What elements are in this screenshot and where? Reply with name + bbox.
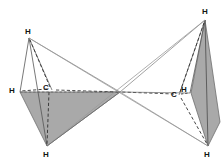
label-right-side-hydrogen: H [181, 86, 187, 94]
tetrahedra-svg [0, 0, 223, 163]
label-left-bottom-hydrogen: H [43, 151, 49, 159]
label-right-carbon: C [171, 91, 177, 99]
label-right-apex-hydrogen: H [202, 8, 208, 16]
left-bond-apexH-to-leftH [20, 38, 29, 92]
right-edge-rightH-to-shared-vertex [120, 92, 190, 93]
cross-line-right-apex-to-left-bottom [47, 20, 205, 146]
label-left-apex-hydrogen: H [25, 28, 31, 36]
label-right-bottom-hydrogen: H [204, 151, 210, 159]
tetrahedra-figure: H H C H H C H H [0, 0, 223, 163]
label-left-side-hydrogen: H [9, 87, 15, 95]
label-left-carbon: C [43, 84, 49, 92]
